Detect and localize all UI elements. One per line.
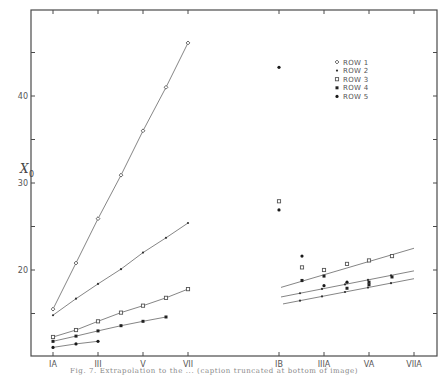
- x-tick-label: IA: [49, 360, 57, 369]
- legend-item-row-5: ROW 5: [335, 93, 368, 101]
- filled-dot-marker-icon: [335, 95, 338, 98]
- y-tick-label: 30: [18, 179, 28, 188]
- legend-item-row-3: ROW 3: [335, 76, 368, 84]
- series-line-row-4: [53, 317, 166, 341]
- open-square-marker-icon: [74, 328, 77, 331]
- axis-ticks: [31, 10, 437, 356]
- open-diamond-marker-icon: [335, 60, 339, 64]
- filled-dot-marker-icon: [322, 284, 325, 287]
- legend-item-row-4: ROW 4: [336, 84, 369, 92]
- open-square-marker-icon: [141, 304, 144, 307]
- y-axis-label-main: X: [19, 162, 29, 176]
- open-square-marker-icon: [300, 266, 303, 269]
- filled-square-marker-icon: [336, 86, 339, 89]
- small-dot-marker-icon: [344, 283, 346, 285]
- open-diamond-marker-icon: [51, 307, 55, 311]
- small-dot-marker-icon: [299, 300, 301, 302]
- x-tick-label: VA: [364, 360, 375, 369]
- small-dot-marker-icon: [187, 222, 189, 224]
- open-diamond-marker-icon: [119, 173, 123, 177]
- figure-caption: Fig. 7. Extrapolation to the ... (captio…: [70, 367, 358, 375]
- y-tick-label: 40: [18, 92, 28, 101]
- filled-dot-marker-icon: [277, 66, 280, 69]
- open-diamond-marker-icon: [186, 41, 190, 45]
- legend-item-row-1: ROW 1: [335, 59, 368, 67]
- open-square-marker-icon: [51, 335, 54, 338]
- small-dot-marker-icon: [299, 292, 301, 294]
- filled-dot-marker-icon: [74, 342, 77, 345]
- open-square-marker-icon: [390, 254, 393, 257]
- small-dot-marker-icon: [52, 314, 54, 316]
- filled-square-marker-icon: [391, 275, 394, 278]
- open-diamond-marker-icon: [74, 261, 78, 265]
- open-square-marker-icon: [345, 262, 348, 265]
- y-axis-label-subscript: 0: [29, 170, 34, 179]
- filled-square-marker-icon: [368, 281, 371, 284]
- small-dot-marker-icon: [97, 283, 99, 285]
- plot-frame: [31, 10, 437, 356]
- filled-square-marker-icon: [301, 279, 304, 282]
- small-dot-marker-icon: [390, 282, 392, 284]
- small-dot-marker-icon: [367, 279, 369, 281]
- y-tick-label: 20: [18, 266, 28, 275]
- small-dot-marker-icon: [142, 252, 144, 254]
- open-square-marker-icon: [164, 296, 167, 299]
- figure-caption-text: Fig. 7. Extrapolation to the ... (captio…: [70, 367, 358, 375]
- legend-label: ROW 5: [343, 93, 368, 101]
- plot-border: [31, 10, 437, 356]
- open-square-marker-icon: [96, 320, 99, 323]
- small-dot-marker-icon: [336, 70, 338, 72]
- legend: ROW 1ROW 2ROW 3ROW 4ROW 5: [335, 59, 369, 101]
- legend-label: ROW 1: [343, 59, 368, 67]
- small-dot-marker-icon: [321, 288, 323, 290]
- y-axis-label: X 0: [19, 162, 34, 179]
- small-dot-marker-icon: [344, 291, 346, 293]
- small-dot-marker-icon: [367, 286, 369, 288]
- filled-dot-marker-icon: [51, 346, 54, 349]
- open-square-marker-icon: [119, 311, 122, 314]
- filled-dot-marker-icon: [300, 254, 303, 257]
- filled-square-marker-icon: [165, 315, 168, 318]
- open-square-marker-icon: [335, 78, 338, 81]
- filled-square-marker-icon: [323, 275, 326, 278]
- filled-dot-marker-icon: [96, 340, 99, 343]
- filled-square-marker-icon: [52, 340, 55, 343]
- legend-label: ROW 3: [343, 76, 368, 84]
- filled-square-marker-icon: [368, 283, 371, 286]
- filled-square-marker-icon: [346, 287, 349, 290]
- small-dot-marker-icon: [75, 298, 77, 300]
- small-dot-marker-icon: [165, 237, 167, 239]
- legend-item-row-2: ROW 2: [336, 67, 369, 75]
- filled-square-marker-icon: [142, 320, 145, 323]
- open-square-marker-icon: [277, 200, 280, 203]
- filled-square-marker-icon: [75, 335, 78, 338]
- open-diamond-marker-icon: [164, 85, 168, 89]
- open-diamond-marker-icon: [141, 129, 145, 133]
- legend-label: ROW 2: [343, 67, 368, 75]
- y-tick-labels: 203040: [18, 92, 28, 275]
- open-square-marker-icon: [367, 259, 370, 262]
- filled-square-marker-icon: [120, 324, 123, 327]
- legend-label: ROW 4: [343, 84, 369, 92]
- x-tick-label: VIIA: [406, 360, 422, 369]
- small-dot-marker-icon: [321, 295, 323, 297]
- open-square-marker-icon: [322, 268, 325, 271]
- chart: 203040 IAIIIVVIIIBIIIAVAVIIA X 0 ROW 1RO…: [0, 0, 447, 377]
- open-square-marker-icon: [186, 288, 189, 291]
- small-dot-marker-icon: [120, 268, 122, 270]
- open-diamond-marker-icon: [96, 217, 100, 221]
- filled-square-marker-icon: [97, 329, 100, 332]
- filled-dot-marker-icon: [277, 208, 280, 211]
- filled-dot-marker-icon: [345, 281, 348, 284]
